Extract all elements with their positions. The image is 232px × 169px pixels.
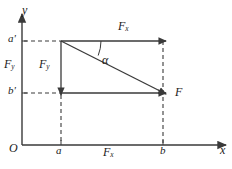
origin-label: O [9, 142, 18, 154]
x-axis-label: x [220, 144, 225, 156]
vector-f-resultant [61, 41, 166, 94]
fx-axis-subscript: x [110, 150, 113, 159]
fy-subscript: y [46, 62, 49, 71]
vector-label-f-resultant: F [175, 86, 182, 98]
x-axis-component-label: Fx [103, 146, 114, 159]
y-axis-component-label: Fy [4, 58, 15, 71]
vector-label-fx-top: Fx [118, 20, 129, 33]
tick-label-a: a [56, 145, 62, 156]
force-decomposition-figure: y x O a' b' a b Fy Fx Fy Fx F α [0, 0, 232, 169]
angle-arc-alpha [98, 41, 101, 56]
y-axis-label: y [22, 4, 27, 16]
fx-top-subscript: x [125, 24, 128, 33]
tick-label-a-prime: a' [8, 33, 16, 44]
tick-label-b-prime: b' [8, 85, 16, 96]
tick-label-b: b [160, 145, 166, 156]
angle-label-alpha: α [102, 54, 108, 66]
fy-axis-subscript: y [11, 62, 14, 71]
figure-canvas [0, 0, 232, 169]
vector-label-fy: Fy [39, 58, 50, 71]
